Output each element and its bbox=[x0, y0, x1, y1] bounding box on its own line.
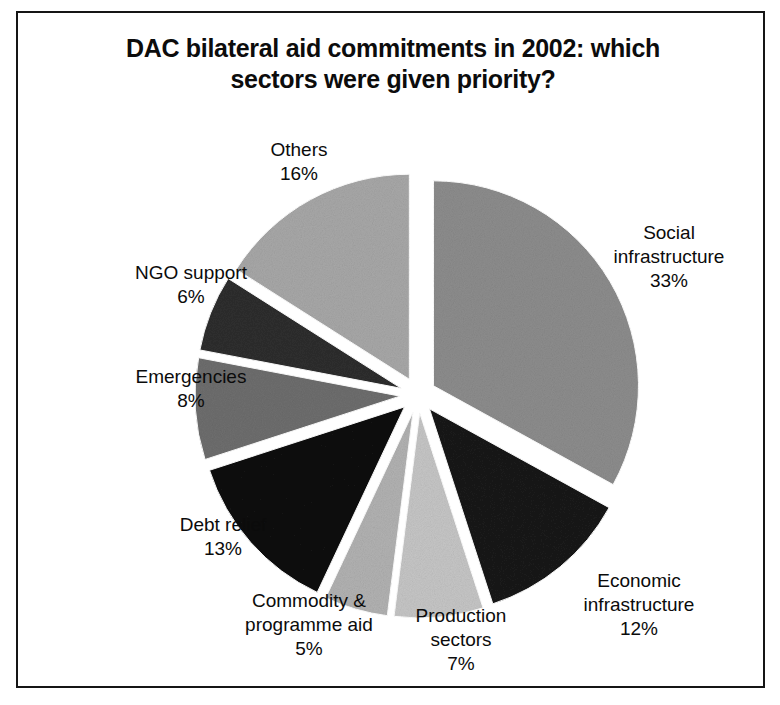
slice-label-name-2: infrastructure bbox=[546, 593, 732, 617]
slice-label-name: Emergencies bbox=[106, 365, 276, 389]
slice-label-value: 7% bbox=[386, 652, 536, 676]
slice-label-value: 33% bbox=[574, 269, 764, 293]
slice-label-ngo-support: NGO support 6% bbox=[96, 261, 286, 309]
slice-label-name: NGO support bbox=[96, 261, 286, 285]
slice-label-name: Economic bbox=[546, 569, 732, 593]
slice-label-value: 12% bbox=[546, 617, 732, 641]
slice-label-name: Social bbox=[574, 221, 764, 245]
slice-label-name: Others bbox=[214, 138, 384, 162]
slice-label-value: 13% bbox=[138, 537, 308, 561]
slice-label-others: Others 16% bbox=[214, 138, 384, 186]
slice-label-emergencies: Emergencies 8% bbox=[106, 365, 276, 413]
slice-label-value: 5% bbox=[214, 637, 404, 661]
slice-label-economic-infrastructure: Economic infrastructure 12% bbox=[546, 569, 732, 641]
slice-label-debt-relief: Debt relief 13% bbox=[138, 513, 308, 561]
slice-label-name-2: programme aid bbox=[214, 613, 404, 637]
chart-frame: DAC bilateral aid commitments in 2002: w… bbox=[16, 11, 765, 688]
slice-label-production-sectors: Production sectors 7% bbox=[386, 604, 536, 676]
slice-label-name: Debt relief bbox=[138, 513, 308, 537]
slice-label-name: Production bbox=[386, 604, 536, 628]
slice-label-value: 16% bbox=[214, 162, 384, 186]
slice-label-commodity-programme-aid: Commodity & programme aid 5% bbox=[214, 589, 404, 661]
slice-label-name-2: sectors bbox=[386, 628, 536, 652]
slice-label-value: 6% bbox=[96, 285, 286, 309]
slice-label-name-2: infrastructure bbox=[574, 245, 764, 269]
slice-label-value: 8% bbox=[106, 389, 276, 413]
slice-label-social-infrastructure: Social infrastructure 33% bbox=[574, 221, 764, 293]
slice-label-name: Commodity & bbox=[214, 589, 404, 613]
